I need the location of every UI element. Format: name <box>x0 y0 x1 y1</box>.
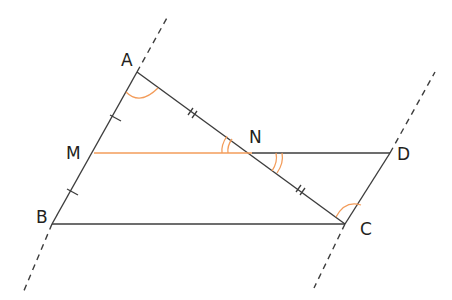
label-n: N <box>249 127 262 147</box>
dashed-line-ab-top <box>137 16 168 72</box>
label-a: A <box>121 50 133 70</box>
angle-arc-a <box>126 88 158 98</box>
segment-dc <box>345 153 390 224</box>
segment-ac <box>137 72 345 224</box>
double-angle-arc-n-right <box>272 153 282 173</box>
dashed-line-dc-top <box>390 72 435 153</box>
label-c: C <box>360 219 372 239</box>
dashed-line-dc-bottom <box>314 224 345 288</box>
dashed-line-ab-bottom <box>23 224 52 293</box>
label-d: D <box>397 144 410 164</box>
label-b: B <box>36 207 48 227</box>
geometry-diagram: A M N D B C <box>0 0 452 300</box>
segment-ab <box>52 72 137 224</box>
label-m: M <box>66 143 81 163</box>
